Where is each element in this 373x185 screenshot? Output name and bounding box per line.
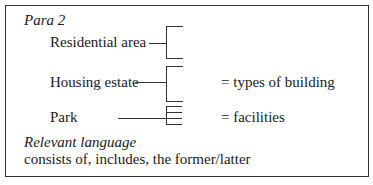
- bracket-lines: [0, 0, 373, 185]
- bracket-park: [118, 106, 182, 125]
- bracket-residential-area: [149, 26, 183, 59]
- bracket-housing-estate: [135, 66, 183, 102]
